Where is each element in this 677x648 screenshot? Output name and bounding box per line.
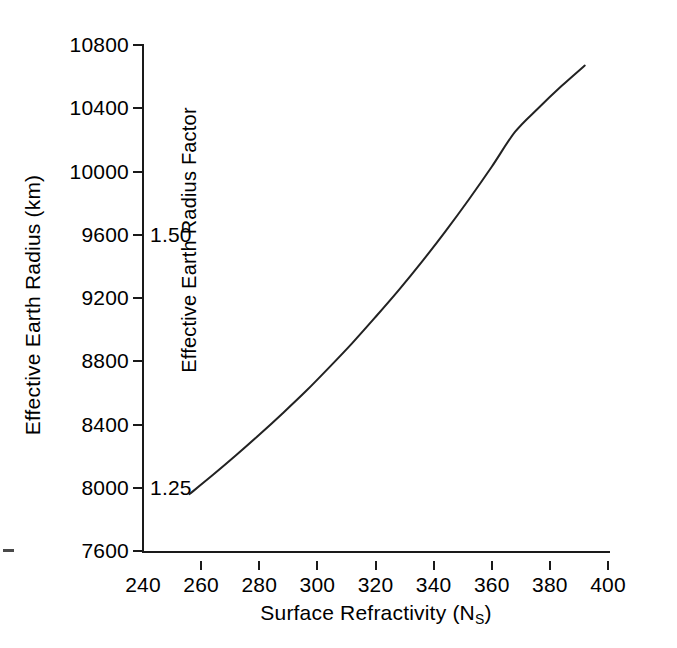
x-tick-mark — [433, 561, 435, 570]
y-axis-title: Effective Earth Radius (km) — [20, 85, 46, 525]
y-tick-mark — [133, 44, 142, 46]
y-tick-mark — [133, 171, 142, 173]
x-tick-label: 380 — [532, 573, 568, 597]
x-tick-label: 260 — [183, 573, 219, 597]
y-tick-mark — [133, 360, 142, 362]
y-tick-mark — [133, 107, 142, 109]
y-tick-mark — [133, 424, 142, 426]
x-tick-mark — [258, 561, 260, 570]
x-tick-mark — [607, 561, 609, 570]
y-tick-label: 8400 — [81, 414, 129, 435]
y-tick-mark — [133, 297, 142, 299]
data-curve-effective-earth-radius — [190, 66, 585, 495]
x-tick-label: 400 — [590, 573, 626, 597]
x-axis-title-subscript: S — [475, 611, 485, 627]
x-tick-label: 300 — [300, 573, 336, 597]
x-tick-mark — [491, 561, 493, 570]
scan-artifact-mark — [3, 549, 14, 552]
x-axis-title-end: ) — [485, 601, 492, 624]
x-axis-title-base: Surface Refractivity (N — [260, 601, 475, 624]
y-tick-mark — [133, 487, 142, 489]
y-axis-line — [142, 44, 144, 553]
x-axis-line — [142, 551, 610, 553]
y-tick-label: 7600 — [81, 540, 129, 561]
factor-annotation-label: 1.25 — [150, 477, 192, 498]
x-tick-mark — [316, 561, 318, 570]
chart-figure: 760080008400880092009600100001040010800 … — [0, 0, 677, 648]
x-tick-label: 360 — [474, 573, 510, 597]
x-tick-label: 280 — [241, 573, 277, 597]
secondary-y-axis-title: Effective Earth Radius Factor — [176, 80, 202, 400]
y-tick-mark — [133, 550, 142, 552]
x-tick-label: 240 — [125, 573, 161, 597]
y-tick-label: 10400 — [70, 97, 129, 118]
x-tick-mark — [375, 561, 377, 570]
x-axis-title: Surface Refractivity (NS) — [142, 600, 610, 628]
y-tick-label: 8000 — [81, 477, 129, 498]
y-tick-mark — [133, 234, 142, 236]
y-tick-label: 9200 — [81, 287, 129, 308]
y-tick-label: 8800 — [81, 350, 129, 371]
x-tick-label: 320 — [358, 573, 394, 597]
x-tick-label: 340 — [416, 573, 452, 597]
y-tick-label: 9600 — [81, 224, 129, 245]
x-tick-mark — [200, 561, 202, 570]
y-tick-label: 10800 — [70, 34, 129, 55]
y-tick-label: 10000 — [70, 161, 129, 182]
x-tick-mark — [549, 561, 551, 570]
